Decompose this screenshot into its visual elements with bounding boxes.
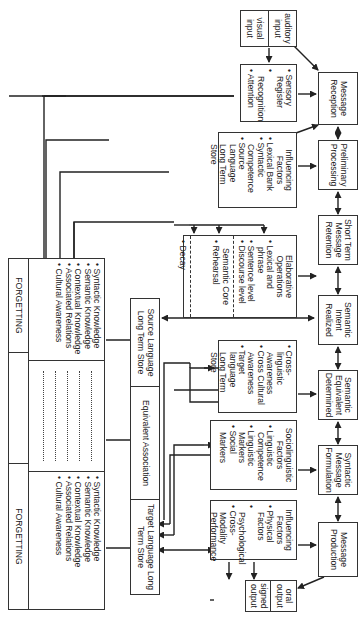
elaborative-item: Sentence level (246, 240, 255, 313)
sociolinguistic-item: Social Markers (218, 425, 237, 485)
influencing-factors-top-box: Influencing Factors Lexical Bank Syntact… (218, 132, 297, 208)
forgetting-label-source: FORGETTING (9, 259, 28, 353)
interpreting-process-diagram: auditory input visual input Sensory Regi… (0, 0, 364, 621)
sociolinguistic-box: Sociolinguistic Factors Linguistic Compe… (210, 420, 297, 490)
target-knowledge-item: Associated Relations (63, 476, 72, 605)
semantic-core-section: Semantic Core Rehearsal (191, 236, 234, 317)
equivalent-knowledge-cell (29, 361, 104, 472)
sensory-box: Sensory Register Recognition Attention (240, 64, 297, 122)
target-knowledge-item: Contextual Knowledge (73, 476, 82, 605)
cross-linguistic-item: Cross Cultural Awareness (246, 345, 265, 408)
auditory-input: auditory input (268, 11, 296, 46)
source-knowledge-item: Contextual Knowledge (73, 263, 82, 356)
influencing-bottom-item: Physical Factors (255, 505, 274, 555)
oral-output: oral output (271, 581, 297, 611)
preliminary-processing-box: Preliminary Processing (318, 140, 358, 190)
target-knowledge-cell: Syntactic Knowledge Semantic Knowledge C… (29, 472, 104, 609)
knowledge-table-body: Syntactic Knowledge Semantic Knowledge C… (29, 259, 104, 609)
cross-linguistic-item: Target language Long Term Store (208, 345, 246, 408)
semantic-equivalent-box: Semantic Equivalent Determined (318, 370, 358, 420)
elaborative-title: Elaborative Operations (274, 240, 293, 313)
target-knowledge-item: Cultural Awareness (54, 476, 63, 605)
sensory-item: Recognition (255, 69, 274, 117)
target-knowledge-item: Semantic Knowledge (82, 476, 91, 605)
target-knowledge-item: Syntactic Knowledge (92, 476, 101, 605)
dotted-line (79, 371, 80, 461)
forgetting-label-target: FORGETTING (9, 464, 28, 609)
knowledge-table: Syntactic Knowledge Semantic Knowledge C… (8, 258, 105, 610)
signed-output: signed output (246, 581, 271, 611)
elaborative-item: Discourse level (237, 240, 246, 313)
sensory-item: Attention (246, 69, 255, 117)
source-knowledge-cell: Syntactic Knowledge Semantic Knowledge C… (29, 259, 104, 361)
influencing-bottom-item: Psychological (237, 505, 256, 555)
influencing-top-item: Syntactic Competence (246, 137, 265, 203)
decay-section: Decay (174, 236, 190, 317)
short-term-retention-box: Short Term Message Retention (318, 215, 358, 265)
cross-linguistic-item: Cross-linguistic Awareness (265, 345, 293, 408)
message-production-box: Message Production (318, 522, 358, 577)
cross-linguistic-box: Cross-linguistic Awareness Cross Cultura… (218, 340, 297, 413)
long-term-stores-column: Source Language Long Term Store Equivale… (130, 298, 160, 595)
sociolinguistic-item: Linguistic Competence (255, 425, 274, 485)
semantic-intent-box: Semantic Intent Realized (318, 295, 358, 345)
sociolinguistic-title: Sociolinguistic Factors (274, 425, 293, 485)
forgetting-row: FORGETTING FORGETTING (9, 259, 29, 609)
semantic-core-label: Semantic Core (220, 240, 229, 313)
dotted-line (67, 371, 68, 461)
target-language-store: Target Language Long Term Store (131, 500, 159, 594)
source-knowledge-item: Semantic Knowledge (82, 263, 91, 356)
output-modalities-box: oral output signed output (245, 580, 297, 612)
dotted-line (43, 371, 44, 461)
source-knowledge-item: Cultural Awareness (54, 263, 63, 356)
sociolinguistic-item: Linguistic Markers (237, 425, 256, 485)
influencing-factors-bottom-box: Influencing Factors Physical Factors Psy… (210, 500, 297, 560)
elaborative-section: Elaborative Operations Lexical and phras… (234, 236, 296, 317)
elaborative-operations-box: Elaborative Operations Lexical and phras… (183, 235, 297, 318)
visual-input: visual input (241, 11, 268, 46)
source-knowledge-item: Syntactic Knowledge (92, 263, 101, 356)
elaborative-item: Lexical and phrase (255, 240, 274, 313)
sensory-item: Sensory Register (274, 69, 293, 117)
influencing-top-title: Influencing Factors (274, 137, 293, 203)
influencing-bottom-item: Cross-Modality Performance (208, 505, 236, 555)
source-language-store: Source Language Long Term Store (131, 299, 159, 387)
influencing-top-item: Lexical Bank (265, 137, 274, 203)
dotted-line (55, 371, 56, 461)
forgetting-empty-cell (9, 353, 28, 464)
equivalent-association: Equivalent Association (131, 387, 159, 500)
dotted-line (91, 371, 92, 461)
input-modalities-box: auditory input visual input (240, 10, 297, 47)
influencing-top-item: Source Language Long Term Store (208, 137, 246, 203)
decay-item: Decay (177, 240, 186, 313)
message-reception-box: Message Reception (318, 72, 358, 125)
source-knowledge-item: Associated Relations (63, 263, 72, 356)
influencing-bottom-title: Influencing Factors (274, 505, 293, 555)
syntactic-formulation-box: Syntactic Message Formulation (318, 445, 358, 495)
rehearsal-item: Rehearsal (211, 240, 220, 313)
